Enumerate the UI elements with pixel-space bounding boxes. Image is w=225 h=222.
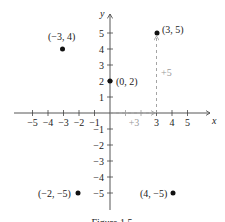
- svg-text:2: 2: [99, 76, 104, 87]
- svg-text:−5: −5: [27, 117, 38, 128]
- svg-text:−2: −2: [74, 117, 85, 128]
- x-axis-label: x: [211, 115, 217, 126]
- svg-text:3: 3: [99, 60, 104, 71]
- svg-text:−3: −3: [58, 117, 69, 128]
- point-label-neg3-4: (−3, 4): [48, 31, 75, 43]
- svg-text:−4: −4: [93, 172, 104, 183]
- svg-text:−4: −4: [43, 117, 54, 128]
- point-neg3-4: [60, 47, 65, 52]
- svg-text:4: 4: [170, 117, 175, 128]
- svg-text:4: 4: [99, 44, 104, 55]
- point-neg2-neg5: [76, 191, 81, 196]
- coordinate-plane: x y −5 −4 −3 −2 −1 3 4 5 5: [0, 0, 225, 222]
- svg-text:5: 5: [185, 117, 190, 128]
- point-label-neg2-neg5: (−2, −5): [38, 188, 71, 200]
- point-label-4-neg5: (4, −5): [140, 188, 167, 200]
- point-4-neg5: [171, 191, 176, 196]
- plus3-label: +3: [129, 117, 140, 128]
- plus5-label: +5: [161, 67, 172, 78]
- point-label-3-5: (3, 5): [162, 24, 184, 36]
- svg-text:−3: −3: [93, 156, 104, 167]
- svg-text:−5: −5: [93, 188, 104, 199]
- svg-text:−1: −1: [93, 124, 104, 135]
- svg-text:3: 3: [154, 117, 159, 128]
- x-tick-labels: −5 −4 −3 −2 −1 3 4 5: [27, 117, 190, 128]
- figure-caption: Figure 1.5: [91, 217, 132, 222]
- point-3-5: [155, 31, 160, 36]
- y-axis-label: y: [99, 8, 105, 19]
- svg-text:1: 1: [99, 92, 104, 103]
- svg-text:5: 5: [99, 28, 104, 39]
- svg-text:−2: −2: [93, 140, 104, 151]
- point-0-2: [108, 79, 113, 84]
- point-label-0-2: (0, 2): [116, 76, 138, 88]
